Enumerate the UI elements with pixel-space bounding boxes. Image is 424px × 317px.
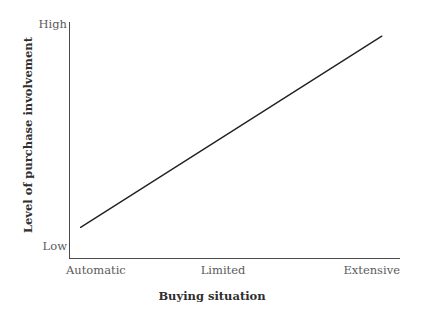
y-axis-title: Level of purchase involvement: [23, 15, 39, 255]
x-axis-tick-limited: Limited: [192, 265, 254, 277]
x-axis-tick-extensive: Extensive: [340, 265, 400, 277]
x-axis-title: Buying situation: [0, 291, 424, 303]
y-axis-tick-high: High: [39, 19, 67, 31]
x-axis-tick-automatic: Automatic: [66, 265, 126, 277]
y-axis-tick-low: Low: [43, 241, 67, 253]
data-line-series-1: [81, 36, 382, 227]
chart-figure: High Low Automatic Limited Extensive Lev…: [0, 0, 424, 317]
